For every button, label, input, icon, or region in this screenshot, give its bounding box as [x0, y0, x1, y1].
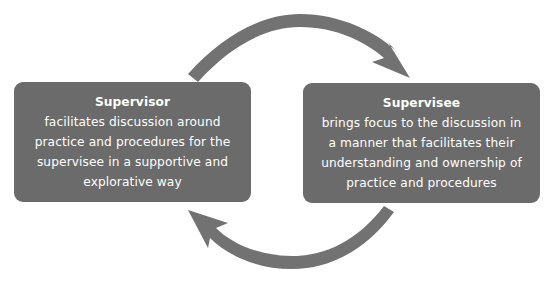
curved-arrow-bottom-left-icon — [188, 206, 394, 269]
supervisee-desc-line: a manner that facilitates their — [309, 133, 534, 153]
supervisee-box: Supervisee brings focus to the discussio… — [303, 83, 540, 203]
curved-arrow-top-right-icon — [188, 14, 410, 82]
supervisor-desc-line: explorative way — [22, 172, 243, 192]
supervisor-title: Supervisor — [22, 92, 243, 112]
supervisee-title: Supervisee — [309, 93, 534, 113]
supervisor-desc-line: facilitates discussion around — [22, 112, 243, 132]
supervisee-desc-line: understanding and ownership of — [309, 153, 534, 173]
supervisor-desc-line: practice and procedures for the — [22, 132, 243, 152]
supervisor-box: Supervisor facilitates discussion around… — [14, 82, 251, 202]
supervisee-desc-line: practice and procedures — [309, 173, 534, 193]
supervisor-desc-line: supervisee in a supportive and — [22, 152, 243, 172]
supervisee-desc-line: brings focus to the discussion in — [309, 113, 534, 133]
